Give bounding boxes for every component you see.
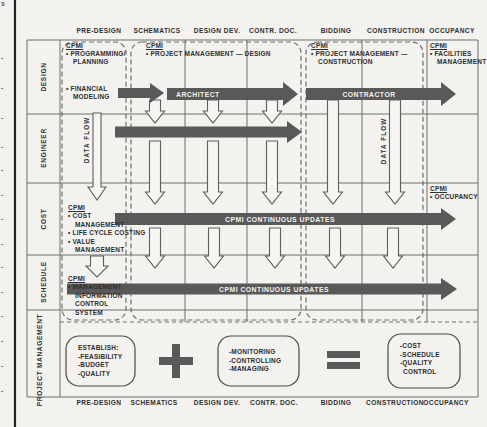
- down-arrow-icon: [266, 228, 285, 268]
- page-edge-fragment: -: [1, 54, 3, 61]
- phase-footer-construction: CONSTRUCTION: [366, 399, 424, 407]
- equals-icon: [327, 351, 360, 358]
- down-arrow-icon: [263, 141, 282, 204]
- page-edge-fragment: -: [1, 240, 3, 247]
- phase-footer-contr-doc: CONTR. DOC.: [250, 399, 298, 407]
- row-label-cost: COST: [40, 209, 48, 230]
- note-cost-management: CPMI • COST MANAGEMENT • LIFE CYCLE COST…: [68, 204, 145, 255]
- page-edge-fragment: -: [1, 114, 3, 121]
- architect-bar-label: ARCHITECT: [176, 91, 220, 98]
- phase-footer-occupancy: OCCUPANCY: [423, 399, 469, 407]
- down-arrow-icon: [263, 100, 282, 123]
- note-occupancy: CPMI • OCCUPANCY: [430, 185, 478, 201]
- data-flow-label-construction: DATA FLOW: [380, 118, 388, 165]
- phase-footer-design-dev: DESIGN DEV.: [194, 399, 240, 407]
- phase-header-pre-design: PRE-DESIGN: [76, 27, 121, 35]
- note-establish-goals: ESTABLISH: -FEASIBILITY -BUDGET -QUALITY: [78, 344, 122, 378]
- page-edge-fragment: -: [1, 166, 3, 173]
- note-facilities-management: CPMI • FACILITIES MANAGEMENT: [430, 42, 486, 66]
- down-arrow-icon: [146, 228, 165, 268]
- down-arrow-icon: [86, 256, 108, 277]
- schedule-continuous-updates-label: CPMI CONTINUOUS UPDATES: [219, 286, 329, 293]
- phase-header-schematics: SCHEMATICS: [133, 27, 180, 35]
- plus-icon: [172, 344, 180, 378]
- row-label-project-management: PROJECT MANAGEMENT: [36, 314, 44, 406]
- note-financial-modeling: • FINANCIAL MODELING: [66, 85, 110, 101]
- note-project-management-design: CPMI • PROJECT MANAGEMENT — DESIGN: [146, 42, 271, 58]
- phase-footer-schematics: SCHEMATICS: [130, 399, 177, 407]
- equals-icon: [327, 362, 360, 369]
- page-edge-fragment: -: [1, 362, 3, 369]
- note-cost-schedule-quality-control: -COST -SCHEDULE -QUALITY CONTROL: [400, 342, 440, 376]
- page-edge-fragment: -: [1, 337, 3, 344]
- phase-footer-pre-design: PRE-DESIGN: [76, 399, 121, 407]
- phase-header-design-dev: DESIGN DEV.: [194, 27, 240, 35]
- cost-continuous-updates-label: CPMI CONTINUOUS UPDATES: [225, 216, 335, 223]
- down-arrow-icon: [205, 228, 224, 268]
- note-project-management-construction: CPMI • PROJECT MANAGEMENT — CONSTRUCTION: [311, 42, 408, 66]
- down-arrow-icon: [384, 228, 403, 268]
- contractor-bar-label: CONTRACTOR: [342, 91, 395, 98]
- page-edge-fragment: -: [1, 312, 3, 319]
- page-edge-fragment: -: [1, 143, 3, 150]
- down-arrow-icon: [324, 100, 343, 204]
- row-label-design: DESIGN: [40, 62, 48, 91]
- page-edge-fragment: -: [1, 191, 3, 198]
- page-edge-fragment: -: [1, 215, 3, 222]
- phase-header-contr-doc: CONTR. DOC.: [249, 27, 297, 35]
- engineer-data-flow-arrow: [115, 121, 302, 143]
- page-edge-fragment: s: [1, 0, 5, 7]
- row-label-engineer: ENGINEER: [40, 128, 48, 168]
- note-monitoring-controlling-managing: -MONITORING -CONTROLLING -MANAGING: [229, 348, 281, 374]
- page-edge-fragment: -: [1, 387, 3, 394]
- row-label-schedule: SCHEDULE: [40, 261, 48, 302]
- note-cpmi-programming-planning: CPMI • PROGRAMMING/ PLANNING: [66, 42, 126, 66]
- down-arrow-icon: [146, 141, 165, 204]
- page-edge-fragment: -: [1, 84, 3, 91]
- data-flow-label-predesign: DATA FLOW: [83, 117, 91, 164]
- down-arrow-icon: [326, 228, 345, 268]
- phase-header-construction: CONSTRUCTION: [367, 27, 425, 35]
- down-arrow-icon: [204, 141, 223, 204]
- page-edge-fragment: -: [1, 288, 3, 295]
- page-edge-fragment: -: [1, 263, 3, 270]
- down-arrow-icon: [204, 100, 223, 123]
- scanned-diagram-page: s -------------- PRE-DESIGN SCHEMATICS D…: [0, 0, 487, 427]
- note-management-information-control-system: CPMI • MANAGEMENT INFORMATION CONTROL SY…: [68, 275, 123, 317]
- phase-header-bidding: BIDDING: [321, 27, 352, 35]
- phase-header-occupancy: OCCUPANCY: [429, 27, 475, 35]
- down-arrow-icon: [386, 100, 405, 204]
- down-arrow-icon: [146, 100, 165, 123]
- phase-footer-bidding: BIDDING: [321, 399, 352, 407]
